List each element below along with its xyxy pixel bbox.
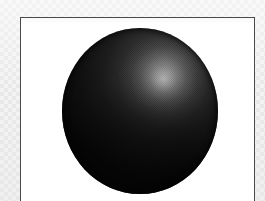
image-frame: Dark matte sphere with a bright specular… bbox=[20, 17, 255, 201]
shaded-sphere bbox=[62, 28, 218, 194]
sphere-shadow-overlay bbox=[62, 28, 218, 194]
frame-inner-sheen bbox=[21, 18, 254, 24]
figure-canvas: Dark matte sphere with a bright specular… bbox=[0, 0, 265, 201]
figure-alt-text: Dark matte sphere with a bright specular… bbox=[21, 18, 22, 19]
sphere-rim-shading bbox=[62, 28, 218, 194]
sphere-dither-grain bbox=[62, 28, 218, 194]
